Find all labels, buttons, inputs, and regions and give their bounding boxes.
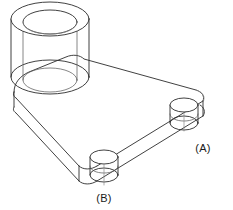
base-plate-group bbox=[13, 55, 204, 192]
callout-label-a: (A) bbox=[195, 142, 210, 154]
technical-drawing-canvas: (A) (B) bbox=[0, 0, 233, 210]
callout-label-b: (B) bbox=[96, 192, 111, 204]
isometric-part-drawing: (A) (B) bbox=[0, 0, 233, 210]
